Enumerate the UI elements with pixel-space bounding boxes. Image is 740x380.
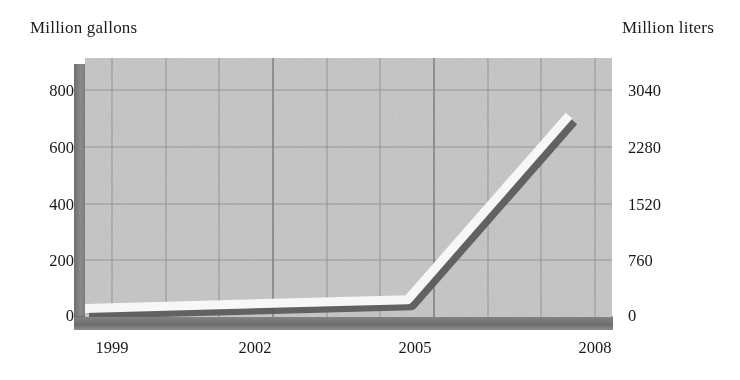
ytick-left-200: 200 bbox=[18, 251, 74, 271]
data-series-line bbox=[85, 116, 573, 314]
right-axis-title: Million liters bbox=[622, 18, 714, 38]
ytick-left-400: 400 bbox=[18, 195, 74, 215]
ytick-right-0: 0 bbox=[628, 306, 698, 326]
ytick-left-600: 600 bbox=[18, 138, 74, 158]
plot-area bbox=[85, 58, 612, 317]
gridlines-horizontal bbox=[85, 90, 612, 260]
xtick-1999: 1999 bbox=[72, 338, 152, 358]
ytick-right-1520: 1520 bbox=[628, 195, 698, 215]
ytick-right-3040: 3040 bbox=[628, 81, 698, 101]
ytick-right-2280: 2280 bbox=[628, 138, 698, 158]
ytick-right-760: 760 bbox=[628, 251, 698, 271]
plot-canvas bbox=[85, 58, 612, 317]
axis-floor-bar bbox=[74, 317, 613, 330]
gridlines-vertical-major bbox=[273, 58, 434, 317]
gridlines-vertical bbox=[112, 58, 595, 317]
xtick-2008: 2008 bbox=[555, 338, 635, 358]
ytick-left-0: 0 bbox=[18, 306, 74, 326]
ytick-left-800: 800 bbox=[18, 81, 74, 101]
xtick-2002: 2002 bbox=[215, 338, 295, 358]
left-axis-title: Million gallons bbox=[30, 18, 137, 38]
data-line-shadow bbox=[89, 121, 573, 314]
xtick-2005: 2005 bbox=[375, 338, 455, 358]
chart-figure: Million gallons Million liters bbox=[0, 0, 740, 380]
